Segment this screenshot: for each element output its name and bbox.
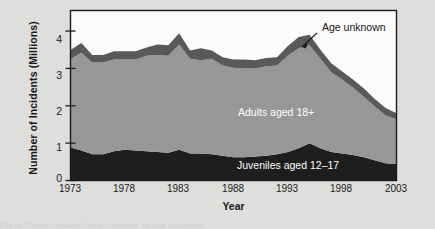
stacked-area-chart: Age unknownAdults aged 18+Juveniles aged…	[0, 0, 435, 229]
figure-caption-partial: Figure Firearm-related Crime Incidents, …	[0, 221, 435, 229]
annotation-juveniles-aged-12-17: Juveniles aged 12–17	[237, 159, 339, 171]
annotation-age-unknown: Age unknown	[322, 21, 386, 33]
annotation-adults-aged-18plus: Adults aged 18+	[238, 106, 314, 118]
figure-container: Number of Incidents (Millions) 4 3 2 1 0…	[0, 0, 435, 229]
